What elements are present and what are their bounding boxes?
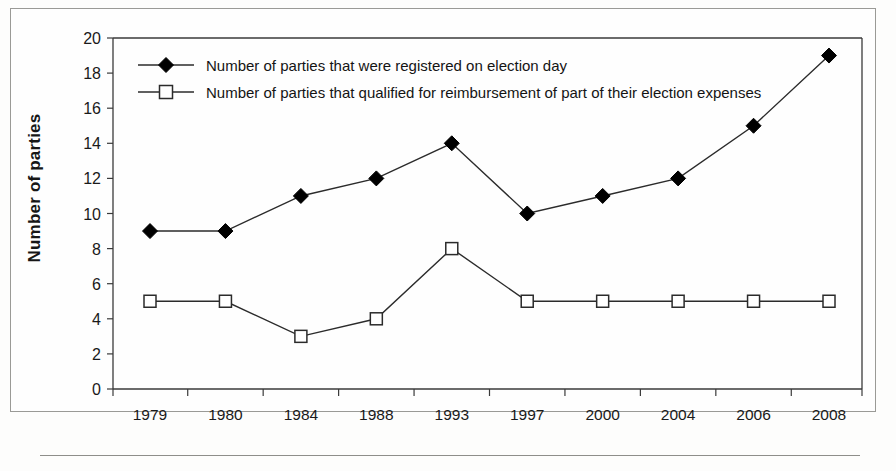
data-point-diamond-marker: [595, 188, 610, 203]
chart-legend: Number of parties that were registered o…: [138, 57, 761, 101]
data-point-diamond-marker: [293, 188, 308, 203]
y-tick-label: 16: [83, 100, 101, 117]
data-point-square-marker: [219, 295, 231, 307]
data-series: [144, 243, 835, 343]
y-tick-label: 6: [92, 276, 101, 293]
data-point-diamond-marker: [143, 224, 158, 239]
data-point-square-marker: [370, 313, 382, 325]
x-tick-label: 2004: [661, 406, 696, 423]
series-polyline: [150, 249, 829, 337]
data-point-square-marker: [160, 86, 173, 99]
bottom-divider-rule: [40, 455, 860, 456]
data-point-square-marker: [597, 295, 609, 307]
data-point-square-marker: [672, 295, 684, 307]
data-point-diamond-marker: [369, 171, 384, 186]
x-tick-label: 1980: [208, 406, 243, 423]
x-tick-label: 1984: [284, 406, 319, 423]
data-point-square-marker: [521, 295, 533, 307]
y-tick-label: 20: [83, 30, 101, 47]
x-axis-tick-group: 1979198019841988199319972000200420062008: [113, 389, 862, 423]
y-tick-label: 14: [83, 135, 101, 152]
x-tick-label: 2006: [736, 406, 770, 423]
data-point-square-marker: [748, 295, 760, 307]
data-point-square-marker: [446, 243, 458, 255]
data-point-diamond-marker: [671, 171, 686, 186]
legend-item: Number of parties that qualified for rei…: [138, 84, 761, 101]
legend-label: Number of parties that qualified for rei…: [206, 84, 761, 101]
data-point-diamond-marker: [159, 58, 174, 73]
y-tick-label: 8: [92, 241, 101, 258]
data-point-square-marker: [823, 295, 835, 307]
figure-container: Number of parties 02468101214161820 1979…: [0, 0, 896, 471]
y-axis-tick-group: 02468101214161820: [83, 30, 113, 398]
y-tick-label: 10: [83, 206, 101, 223]
y-tick-label: 2: [92, 346, 101, 363]
x-tick-label: 1979: [133, 406, 167, 423]
data-series: [143, 48, 837, 239]
legend-item: Number of parties that were registered o…: [138, 57, 568, 74]
x-tick-label: 1997: [510, 406, 544, 423]
y-tick-label: 4: [92, 311, 101, 328]
data-point-diamond-marker: [218, 224, 233, 239]
data-point-square-marker: [295, 330, 307, 342]
plot-area: 02468101214161820 1979198019841988199319…: [0, 0, 896, 471]
data-point-square-marker: [144, 295, 156, 307]
x-tick-label: 2000: [585, 406, 620, 423]
line-chart-svg: 02468101214161820 1979198019841988199319…: [0, 0, 896, 471]
series-polyline: [150, 56, 829, 232]
y-tick-label: 18: [83, 65, 101, 82]
y-tick-label: 0: [92, 381, 101, 398]
x-tick-label: 1988: [359, 406, 393, 423]
x-tick-label: 2008: [812, 406, 846, 423]
legend-label: Number of parties that were registered o…: [206, 57, 568, 74]
y-tick-label: 12: [83, 170, 101, 187]
x-tick-label: 1993: [435, 406, 469, 423]
